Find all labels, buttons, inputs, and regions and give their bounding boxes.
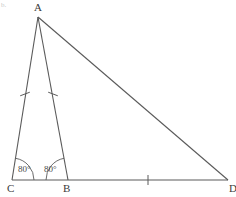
vertex-label-b: B (63, 183, 70, 194)
segment-ab (38, 17, 68, 180)
segment-ad (38, 17, 228, 180)
angle-measure-c: 80° (18, 165, 31, 174)
vertex-label-a: A (34, 2, 42, 13)
vertex-label-d: D (229, 183, 236, 194)
vertex-label-c: C (7, 183, 14, 194)
geometry-canvas (0, 0, 236, 197)
tick-mark-ab (48, 92, 58, 96)
geometry-figure: b. A C B D 80° 80° (0, 0, 236, 197)
angle-measure-b: 80° (44, 165, 57, 174)
segment-ac (12, 17, 38, 180)
